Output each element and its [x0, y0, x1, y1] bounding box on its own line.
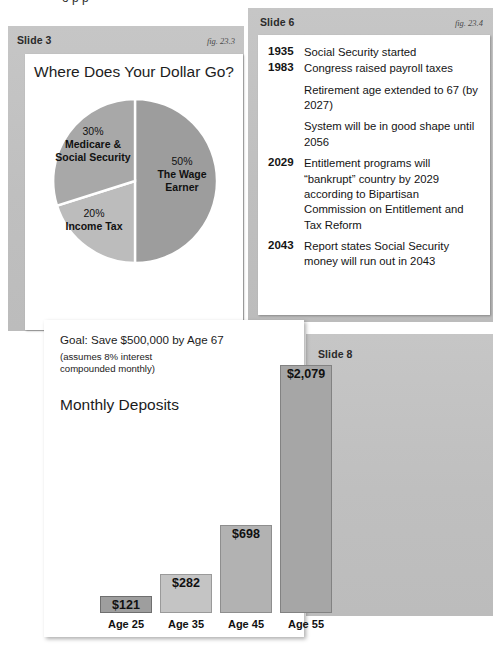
bar-category-age-35: Age 35 — [158, 618, 214, 630]
timeline-row: 1983 Congress raised payroll taxes — [268, 61, 480, 76]
pie-label-income-tax: 20% Income Tax — [59, 207, 129, 233]
bar-value-age-45: $698 — [220, 527, 272, 541]
timeline-text: Report states Social Security money will… — [304, 239, 480, 270]
pie-pct-medicare: 30% — [53, 125, 133, 137]
pie-label-medicare: 30% Medicare & Social Security — [53, 125, 133, 163]
pie-pct-income-tax: 20% — [59, 207, 129, 219]
bar-chart-plot: $121 Age 25 $282 Age 35 $698 Age 45 $2,0… — [58, 342, 296, 637]
bar-category-age-45: Age 45 — [218, 618, 274, 630]
timeline-year: 2043 — [268, 239, 304, 251]
monthly-deposits-slide: Goal: Save $500,000 by Age 67 (assumes 8… — [44, 320, 304, 637]
timeline-text: Entitlement programs will “bankrupt” cou… — [304, 156, 480, 233]
pie-label-wage-earner: 50% The Wage Earner — [147, 155, 217, 193]
timeline-row: 2029 Entitlement programs will “bankrupt… — [268, 156, 480, 233]
timeline-year: 1983 — [268, 61, 304, 73]
slide-3-content: Where Does Your Dollar Go? 50% The Wage … — [25, 54, 243, 330]
slide-6-content: 1935 Social Security started 1983 Congre… — [258, 35, 490, 315]
bar-value-age-35: $282 — [160, 576, 212, 590]
bar-age-55 — [280, 365, 332, 613]
slide-6-title: Slide 6 — [260, 16, 295, 28]
pie-name-wage-earner-line1: The Wage — [147, 168, 217, 180]
bar-value-age-25: $121 — [100, 598, 152, 612]
bar-category-age-55: Age 55 — [278, 618, 334, 630]
slide-6-frame: Slide 6 fig. 23.4 1935 Social Security s… — [248, 8, 493, 322]
timeline-year: 1935 — [268, 45, 304, 57]
slide-3-title: Slide 3 — [17, 34, 52, 46]
pie-name-wage-earner-line2: Earner — [147, 181, 217, 193]
pie-name-medicare-line2: Social Security — [53, 151, 133, 163]
timeline-row: 1935 Social Security started — [268, 45, 480, 60]
slide-3-fig-label: fig. 23.3 — [207, 36, 235, 46]
top-cutoff-text-sliver: o p p — [0, 0, 493, 7]
pie-chart-title: Where Does Your Dollar Go? — [25, 63, 243, 81]
pie-name-income-tax: Income Tax — [59, 220, 129, 232]
slide-8-title: Slide 8 — [318, 348, 353, 360]
slide-collage-page: o p p Slide 6 fig. 23.4 1935 Social Secu… — [0, 0, 493, 651]
timeline-text: Retirement age extended to 67 (by 2027) — [304, 83, 480, 114]
cutoff-text: o p p — [62, 0, 89, 5]
slide-6-fig-label: fig. 23.4 — [455, 18, 483, 28]
timeline-year: 2029 — [268, 156, 304, 168]
timeline-text: Congress raised payroll taxes — [304, 61, 480, 76]
slide-3-frame: Slide 3 fig. 23.3 Where Does Your Dollar… — [8, 26, 244, 331]
timeline-text: System will be in good shape until 2056 — [304, 119, 480, 150]
pie-name-medicare-line1: Medicare & — [53, 138, 133, 150]
pie-chart: 50% The Wage Earner 30% Medicare & Socia… — [51, 97, 219, 265]
pie-pct-wage-earner: 50% — [147, 155, 217, 167]
bar-category-age-25: Age 25 — [98, 618, 154, 630]
timeline-row: Retirement age extended to 67 (by 2027) — [268, 83, 480, 114]
timeline-row: System will be in good shape until 2056 — [268, 119, 480, 150]
timeline-text: Social Security started — [304, 45, 480, 60]
bar-value-age-55: $2,079 — [276, 367, 336, 381]
timeline-row: 2043 Report states Social Security money… — [268, 239, 480, 270]
